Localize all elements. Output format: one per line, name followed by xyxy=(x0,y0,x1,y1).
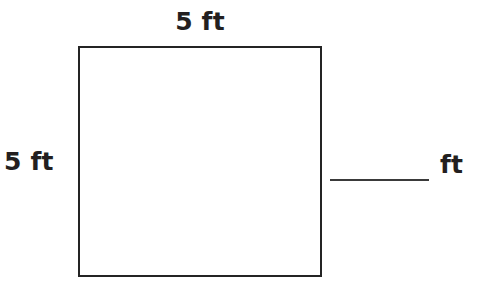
answer-unit-label: ft xyxy=(440,152,463,177)
left-side-length-label: 5 ft xyxy=(4,149,72,174)
worksheet-figure-canvas: 5 ft 5 ft ft xyxy=(0,0,497,291)
answer-area: ft xyxy=(330,152,490,194)
answer-blank-line[interactable] xyxy=(330,179,429,181)
top-side-length-label: 5 ft xyxy=(78,9,322,34)
square-shape xyxy=(78,46,322,277)
